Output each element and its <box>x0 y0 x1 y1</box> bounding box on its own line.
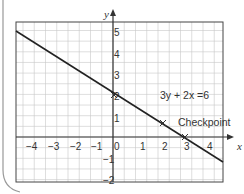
svg-text:0: 0 <box>114 141 120 152</box>
svg-text:−1: −1 <box>91 141 103 152</box>
svg-text:3: 3 <box>184 141 190 152</box>
page-frame <box>3 0 20 192</box>
equation-label: 3y + 2x =6 <box>160 89 209 101</box>
svg-text:−4: −4 <box>26 141 38 152</box>
grid-lines <box>16 22 223 182</box>
svg-text:−2: −2 <box>70 141 82 152</box>
svg-text:2: 2 <box>162 141 168 152</box>
checkpoint-label: Checkpoint <box>178 116 231 128</box>
svg-text:1: 1 <box>140 141 146 152</box>
x-axis-arrow-icon <box>227 134 234 140</box>
svg-text:1: 1 <box>114 113 120 124</box>
graph-figure: x y −4 −3 −2 −1 0 1 2 3 4 5 4 3 2 1 −1 −… <box>0 0 244 194</box>
svg-text:4: 4 <box>207 141 213 152</box>
y-axis-label: y <box>103 8 109 20</box>
svg-text:−1: −1 <box>103 154 115 165</box>
svg-text:5: 5 <box>114 27 120 38</box>
svg-text:−3: −3 <box>48 141 60 152</box>
y-tick-labels: 5 4 3 2 1 −1 −2 <box>103 27 120 186</box>
y-axis-arrow-icon <box>110 9 116 16</box>
svg-text:−2: −2 <box>103 175 115 186</box>
svg-text:4: 4 <box>114 49 120 60</box>
x-tick-labels: −4 −3 −2 −1 0 1 2 3 4 <box>26 141 213 152</box>
x-axis-label: x <box>236 140 242 152</box>
svg-text:3: 3 <box>114 70 120 81</box>
